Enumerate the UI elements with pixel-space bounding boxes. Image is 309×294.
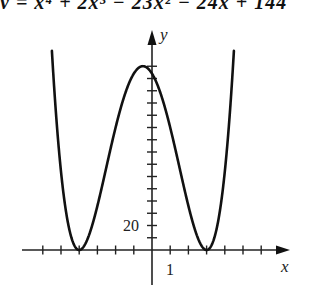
x-tick-label-1: 1 <box>166 261 174 278</box>
x-axis: x 1 <box>22 246 290 279</box>
function-curve <box>52 51 234 250</box>
y-axis-arrow-icon <box>148 30 157 45</box>
function-graph: x 1 y 20 <box>0 0 309 294</box>
y-axis: y 20 <box>123 25 168 285</box>
x-axis-label: x <box>280 257 289 276</box>
x-axis-arrow-icon <box>276 246 290 255</box>
y-axis-label: y <box>158 25 168 44</box>
y-tick-label-20: 20 <box>123 217 139 234</box>
